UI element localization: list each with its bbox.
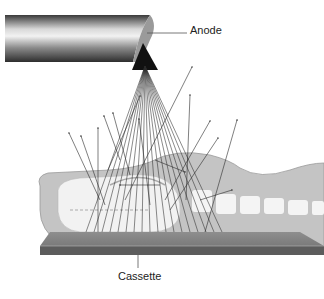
xray-tube bbox=[5, 15, 158, 70]
cassette bbox=[40, 232, 324, 255]
xray-scatter-diagram bbox=[0, 0, 324, 299]
anode-label: Anode bbox=[190, 24, 222, 36]
cassette-label: Cassette bbox=[118, 270, 161, 282]
